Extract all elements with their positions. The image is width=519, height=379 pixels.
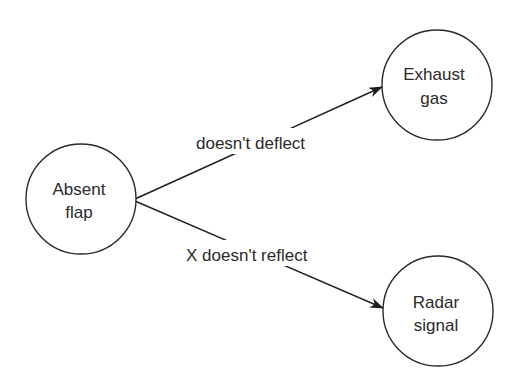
node-label-line1: Absent [53, 180, 106, 199]
node-label-line2: gas [420, 89, 447, 108]
node-radar-signal: Radar signal [383, 256, 493, 366]
edge-label-deflect: doesn't deflect [196, 134, 305, 153]
node-circle [26, 144, 136, 254]
node-label-line1: Exhaust [403, 65, 465, 84]
node-circle [382, 30, 492, 140]
node-label-line1: Radar [413, 293, 460, 312]
edge-absent-to-exhaust: doesn't deflect [135, 87, 382, 199]
node-exhaust-gas: Exhaust gas [382, 30, 492, 140]
edge-label-reflect: X doesn't reflect [186, 246, 308, 265]
node-label-line2: flap [65, 203, 92, 222]
node-label-line2: signal [414, 316, 458, 335]
node-absent-flap: Absent flap [26, 144, 136, 254]
edge-absent-to-radar: X doesn't reflect [135, 201, 383, 308]
diagram-canvas: doesn't deflect X doesn't reflect Absent… [0, 0, 519, 379]
